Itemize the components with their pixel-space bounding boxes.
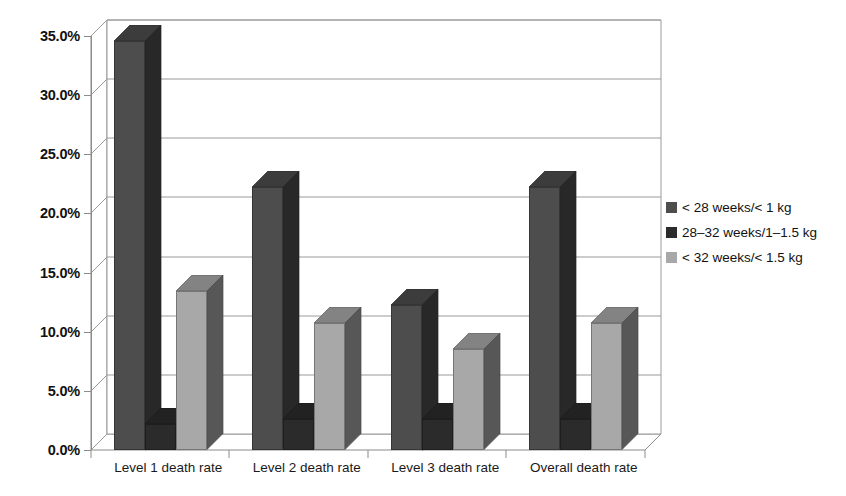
x-axis-tick-label: Level 1 death rate [114,460,222,475]
legend-item[interactable]: < 28 weeks/< 1 kg [666,200,817,215]
bar-front-face [391,305,422,450]
bar-front-face [114,41,145,450]
bar-side-face [345,307,363,452]
bar-column [283,403,314,450]
bar-front-face [422,419,453,450]
bar-column [114,25,145,450]
bar-column [591,307,622,450]
bar-chart: 0.0%5.0%10.0%15.0%20.0%25.0%30.0%35.0% L… [0,0,846,496]
bar-front-face [176,291,207,450]
bar-side-face [622,307,640,452]
legend-swatch-icon [666,252,677,263]
legend-item-label: < 28 weeks/< 1 kg [682,200,792,215]
bar-front-face [252,187,283,450]
bar-column [252,171,283,450]
bar-front-face [283,419,314,450]
bar-column [145,408,176,450]
bar-front-face [591,323,622,450]
bar-front-face [560,419,591,450]
x-axis-tick-label: Level 2 death rate [253,460,361,475]
chart-legend: < 28 weeks/< 1 kg28–32 weeks/1–1.5 kg< 3… [666,200,817,275]
bar-column [422,403,453,450]
x-axis-tick-label: Level 3 death rate [391,460,499,475]
bar-column [176,275,207,450]
bar-side-face [145,25,163,452]
legend-swatch-icon [666,202,677,213]
bar-front-face [314,323,345,450]
bar-side-face [484,333,502,452]
bar-column [453,333,484,450]
bar-front-face [453,349,484,450]
legend-item-label: < 32 weeks/< 1.5 kg [682,250,803,265]
bar-side-face [207,275,225,452]
x-axis-tick-label: Overall death rate [530,460,637,475]
bar-front-face [145,424,176,450]
bar-column [391,289,422,450]
legend-item[interactable]: 28–32 weeks/1–1.5 kg [666,225,817,240]
bar-column [560,403,591,450]
bar-column [314,307,345,450]
legend-item-label: 28–32 weeks/1–1.5 kg [682,225,817,240]
legend-item[interactable]: < 32 weeks/< 1.5 kg [666,250,817,265]
bar-front-face [529,187,560,450]
bar-column [529,171,560,450]
legend-swatch-icon [666,227,677,238]
